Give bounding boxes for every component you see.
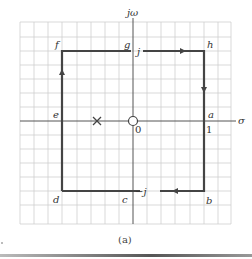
jw-axis-label: jω — [125, 7, 138, 18]
origin-label: 0 — [135, 124, 141, 135]
sigma-axis-label: σ — [238, 115, 246, 126]
point-h-label: h — [207, 39, 213, 50]
point-g-label: g — [124, 39, 130, 50]
point-e-label: e — [53, 109, 59, 120]
point-d-label: d — [53, 194, 59, 205]
point-a-label: a — [208, 109, 214, 120]
point-b-label: b — [206, 195, 212, 206]
stray-dot — [1, 242, 3, 244]
point-c-label: c — [122, 194, 128, 205]
figure-caption: (a) — [118, 234, 132, 245]
point-f-label: f — [54, 39, 61, 50]
unit-imag-pos-label: j — [135, 46, 140, 57]
arrow-down-icon — [201, 87, 207, 93]
arrow-right-icon — [180, 48, 186, 54]
s-plane-diagram: jω σ 0 1 j −j a b c d e f g h (a) — [0, 0, 252, 259]
bottom-rule — [0, 254, 252, 257]
unit-imag-neg-label: −j — [135, 186, 146, 197]
arrow-up-icon — [59, 69, 65, 75]
unit-real-label: 1 — [206, 124, 212, 135]
